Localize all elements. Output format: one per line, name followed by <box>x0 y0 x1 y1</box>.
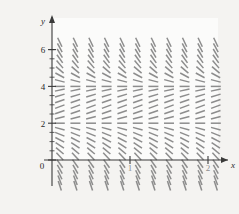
y-tick-label: 4 <box>41 82 46 92</box>
direction-field-figure: 024612 x y <box>0 0 239 214</box>
y-tick-label: 6 <box>41 45 46 55</box>
y-tick-label: 0 <box>40 161 45 171</box>
y-tick-label: 2 <box>41 119 46 129</box>
x-axis-label: x <box>230 160 235 170</box>
x-tick-label: 2 <box>206 163 211 173</box>
x-axis-arrow-icon <box>221 157 228 163</box>
x-tick-label: 1 <box>128 163 133 173</box>
direction-field-plot: 024612 x y <box>0 0 239 214</box>
y-axis-label: y <box>40 16 45 26</box>
